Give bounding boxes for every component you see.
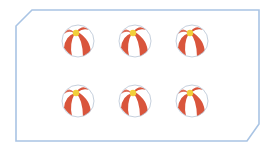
beach-ball-icon [118, 24, 152, 58]
beach-ball-icon [175, 84, 209, 118]
beach-ball-icon [118, 84, 152, 118]
counting-frame [0, 0, 274, 147]
beach-ball-icon [61, 24, 95, 58]
beach-ball-icon [175, 24, 209, 58]
beach-ball-icon [61, 84, 95, 118]
